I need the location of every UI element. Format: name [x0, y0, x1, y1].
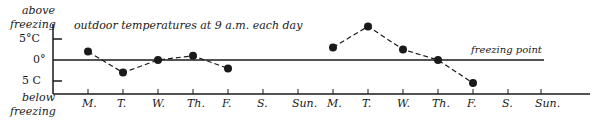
- tick-label: 5°C: [19, 32, 40, 45]
- y-label-freezing-top: freezing: [10, 19, 56, 30]
- above-text: above: [22, 4, 55, 17]
- chart-series: [84, 22, 477, 87]
- y-label-below: below: [22, 92, 55, 103]
- y-tick-0: 0°: [33, 54, 46, 65]
- chart-axes: [53, 24, 590, 94]
- data-point: [434, 56, 442, 64]
- x-tick-label: Sun.: [535, 98, 560, 109]
- x-tick-label: S.: [502, 98, 513, 109]
- y-tick-minus-5c: 5 C: [22, 75, 41, 86]
- x-tick-label: W.: [397, 98, 410, 109]
- chart-title: outdoor temperatures at 9 a.m. each day: [74, 20, 302, 31]
- data-point: [119, 69, 127, 77]
- data-point: [329, 43, 337, 51]
- x-tick-label: M.: [82, 98, 97, 109]
- x-tick-label: M.: [327, 98, 342, 109]
- freezing-text: freezing: [10, 105, 56, 118]
- x-tick-label: W.: [152, 98, 165, 109]
- below-text: below: [22, 91, 55, 104]
- y-label-above: above: [22, 5, 55, 16]
- x-tick-label: Th.: [432, 98, 450, 109]
- x-tick-label: S.: [257, 98, 268, 109]
- y-label-freezing-bottom: freezing: [10, 106, 56, 117]
- title-text: outdoor temperatures at 9 a.m. each day: [74, 19, 302, 32]
- y-tick-5c: 5°C: [19, 33, 40, 44]
- freezing-point-annotation: freezing point: [471, 45, 542, 55]
- x-tick-label: F.: [222, 98, 231, 109]
- tick-label: 0°: [33, 53, 46, 66]
- data-point: [399, 46, 407, 54]
- annotation-text: freezing point: [471, 44, 542, 55]
- data-point: [224, 64, 232, 72]
- data-point: [84, 48, 92, 56]
- data-point: [189, 52, 197, 60]
- series-line: [333, 26, 473, 83]
- data-point: [364, 22, 372, 30]
- x-tick-label: T.: [362, 98, 371, 109]
- x-tick-label: F.: [467, 98, 476, 109]
- tick-label: 5 C: [22, 74, 41, 87]
- data-point: [154, 56, 162, 64]
- x-tick-label: Sun.: [292, 98, 317, 109]
- data-point: [469, 79, 477, 87]
- x-tick-label: T.: [117, 98, 126, 109]
- freezing-text: freezing: [10, 18, 56, 31]
- x-tick-label: Th.: [187, 98, 205, 109]
